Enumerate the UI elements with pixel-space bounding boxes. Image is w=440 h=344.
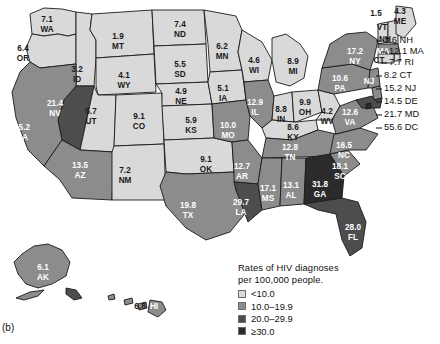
state-MS[interactable] — [258, 158, 282, 210]
state-AK-aleutians[interactable] — [16, 290, 44, 300]
state-PA[interactable] — [318, 64, 370, 94]
state-AK[interactable] — [14, 244, 70, 288]
legend-swatch — [238, 315, 246, 323]
state-MT[interactable] — [90, 10, 154, 58]
svg-text:OR: OR — [17, 54, 29, 63]
state-NE[interactable] — [156, 82, 212, 106]
state-KS[interactable] — [162, 104, 214, 140]
hiv-diagnosis-choropleth-map: 7.1WA6.4OR3.2ID1.9MT7.4ND6.2MN4.6WI8.9MI… — [0, 0, 440, 344]
legend-swatch — [238, 327, 246, 335]
state-NY[interactable] — [322, 32, 378, 70]
legend-item-1: 10.0–19.9 — [238, 301, 438, 313]
legend-item-0: <10.0 — [238, 288, 438, 300]
state-HI-island-2[interactable] — [124, 298, 133, 305]
legend-label: 10.0–19.9 — [251, 301, 293, 312]
state-DE[interactable] — [372, 86, 382, 100]
legend-swatch — [238, 290, 246, 298]
state-NM[interactable] — [112, 144, 166, 200]
state-ND[interactable] — [152, 10, 206, 46]
state-FL[interactable] — [304, 198, 366, 256]
legend-title: Rates of HIV diagnoses per 100,000 peopl… — [238, 262, 438, 285]
state-MI[interactable] — [272, 34, 308, 86]
legend-swatch — [238, 302, 246, 310]
state-NJ[interactable] — [368, 68, 380, 88]
state-WA[interactable] — [30, 8, 76, 36]
legend-title-line2: per 100,000 people. — [238, 274, 323, 285]
state-MO[interactable] — [212, 100, 250, 142]
state-AR[interactable] — [232, 140, 262, 184]
state-AL[interactable] — [280, 158, 306, 206]
state-DC[interactable] — [366, 103, 371, 109]
state-SD[interactable] — [154, 44, 208, 84]
legend-item-2: 20.0–29.9 — [238, 313, 438, 325]
legend-label: ≥30.0 — [251, 326, 274, 337]
state-IN[interactable] — [272, 92, 294, 122]
callout-label: 8.2 CT — [384, 70, 412, 80]
callout-label: 12.1 MA — [389, 46, 424, 56]
callout-label: 55.6 DC — [384, 122, 418, 132]
state-OH[interactable] — [292, 90, 322, 122]
callout-3: 8.2 CT — [376, 70, 412, 80]
state-WI[interactable] — [238, 30, 272, 82]
state-MN[interactable] — [204, 10, 242, 72]
state-CO[interactable] — [114, 93, 164, 146]
callout-7: 55.6 DC — [376, 122, 418, 132]
state-WY[interactable] — [96, 54, 156, 95]
state-AK-panhandle[interactable] — [66, 288, 82, 300]
state-ME[interactable] — [396, 6, 416, 38]
state-HI-island-big[interactable] — [148, 300, 166, 317]
callout-label: 7.7 RI — [389, 57, 414, 67]
callout-4: 15.2 NJ — [376, 83, 416, 93]
legend-title-line1: Rates of HIV diagnoses — [238, 262, 339, 273]
callout-label: 15.2 NJ — [384, 83, 416, 93]
legend-item-3: ≥30.0 — [238, 325, 438, 337]
legend-label: <10.0 — [251, 288, 275, 299]
state-HI-island-3[interactable] — [138, 302, 147, 310]
state-IA[interactable] — [208, 70, 246, 104]
callout-label: 3.6 NH — [384, 35, 413, 45]
panel-letter: (b) — [2, 322, 14, 333]
state-HI-island-1[interactable] — [108, 294, 115, 300]
map-legend: Rates of HIV diagnoses per 100,000 peopl… — [238, 262, 438, 338]
callout-label: 21.7 MD — [384, 109, 419, 119]
state-OR[interactable] — [26, 34, 76, 68]
callout-6: 21.7 MD — [376, 109, 419, 119]
state-OK[interactable] — [164, 138, 234, 174]
legend-label: 20.0–29.9 — [251, 313, 293, 324]
svg-text:1.5: 1.5 — [370, 9, 382, 18]
legend-rows: <10.010.0–19.920.0–29.9≥30.0 — [238, 288, 438, 337]
callout-label: 14.5 DE — [384, 96, 418, 106]
